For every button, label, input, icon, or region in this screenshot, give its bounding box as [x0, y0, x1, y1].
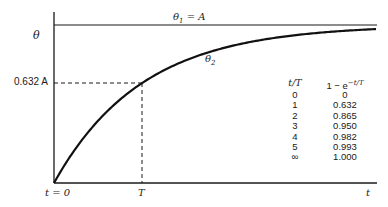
cell-t-over-T: ∞: [270, 152, 320, 162]
theta2-subscript: 2: [211, 59, 215, 67]
x-origin-label: t = 0: [45, 188, 70, 198]
theta1-equals: = A: [184, 11, 206, 22]
y-axis-label: θ: [33, 30, 40, 41]
theta2-label: θ2: [205, 54, 216, 67]
col1-header: t/T: [270, 76, 320, 90]
x-axis-label: t: [366, 188, 370, 198]
table-row: ∞1.000: [270, 152, 370, 162]
cell-response-value: 0.950: [320, 121, 370, 131]
response-table: t/T 1 − e−t/T 0010.63220.86530.95040.982…: [270, 76, 370, 163]
table-header: t/T 1 − e−t/T: [270, 76, 370, 90]
cell-t-over-T: 3: [270, 121, 320, 131]
cell-response-value: 1.000: [320, 152, 370, 162]
x-T-label: T: [138, 188, 145, 198]
col2-header-exponent: −t/T: [348, 79, 364, 87]
col2-header: 1 − e−t/T: [320, 76, 370, 90]
table-row: 30.950: [270, 121, 370, 131]
y-mark-label: 0.632 A: [14, 77, 48, 87]
theta1-label: θ1 = A: [173, 12, 205, 25]
